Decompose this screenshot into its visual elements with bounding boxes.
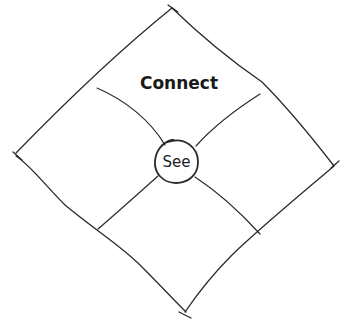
corner-tick-bottom — [179, 312, 191, 318]
edge-bottom-left — [16, 156, 186, 312]
quadrant-label-top: Connect — [140, 73, 218, 93]
corner-tick-left — [13, 152, 22, 160]
divider-bottom-right — [195, 177, 260, 234]
edge-bottom-right — [185, 166, 334, 312]
center-node: See — [155, 140, 198, 183]
center-label: See — [163, 153, 191, 171]
quadrant-diagram: See Connect — [0, 0, 356, 323]
divider-bottom-left — [98, 176, 158, 229]
divider-top-left — [97, 88, 165, 145]
divider-top-right — [196, 94, 260, 146]
